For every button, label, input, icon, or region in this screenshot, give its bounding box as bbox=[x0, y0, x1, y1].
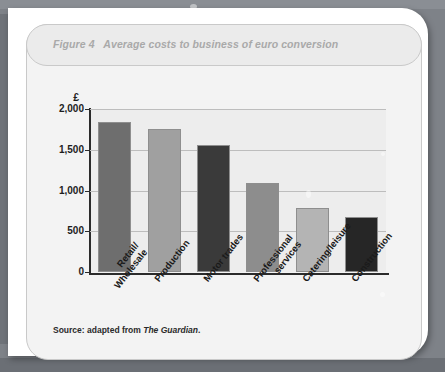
figure-title: Figure 4 Average costs to business of eu… bbox=[53, 38, 338, 50]
scanned-page-background: Figure 4 Average costs to business of eu… bbox=[0, 0, 445, 372]
source-publication: The Guardian bbox=[143, 325, 198, 335]
y-axis-tick-label: 500 bbox=[32, 225, 84, 236]
source-prefix: Source: adapted from bbox=[53, 325, 143, 335]
y-axis-tick-labels: 2,0001,5001,0005000 bbox=[27, 67, 84, 297]
y-axis-tick bbox=[85, 109, 90, 110]
page-sheet: Figure 4 Average costs to business of eu… bbox=[8, 8, 428, 356]
y-axis-tick bbox=[85, 272, 90, 273]
y-axis-tick bbox=[85, 231, 90, 232]
y-axis-tick-label: 0 bbox=[32, 266, 84, 277]
scan-bottom-edge bbox=[0, 358, 445, 372]
bar-chart: £ 2,0001,5001,0005000 Retail/WholesalePr… bbox=[27, 67, 421, 359]
y-axis-tick bbox=[85, 150, 90, 151]
y-axis-tick bbox=[85, 191, 90, 192]
gridline bbox=[90, 150, 386, 151]
gridline bbox=[90, 109, 386, 110]
source-note: Source: adapted from The Guardian. bbox=[53, 325, 200, 335]
y-axis-tick-label: 1,000 bbox=[32, 185, 84, 196]
y-axis-tick-label: 2,000 bbox=[32, 103, 84, 114]
figure-panel: Figure 4 Average costs to business of eu… bbox=[26, 24, 422, 360]
y-axis-tick-label: 1,500 bbox=[32, 144, 84, 155]
source-suffix: . bbox=[198, 325, 200, 335]
gridline bbox=[90, 191, 386, 192]
x-axis-tick-labels: Retail/WholesaleProductionMotor tradesPr… bbox=[90, 275, 390, 359]
